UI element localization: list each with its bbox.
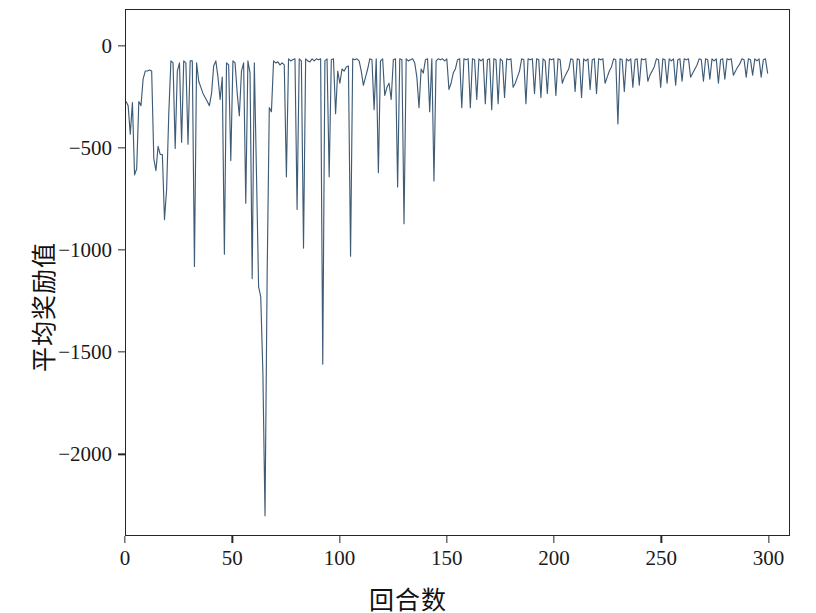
x-tick-label: 250 xyxy=(646,546,678,571)
x-tick-label: 300 xyxy=(753,546,785,571)
y-tick-mark xyxy=(118,45,125,46)
x-tick-mark xyxy=(232,536,233,543)
y-tick-mark xyxy=(118,249,125,250)
y-tick-mark xyxy=(118,147,125,148)
x-axis-label: 回合数 xyxy=(0,580,816,613)
y-tick-mark xyxy=(118,454,125,455)
reward-line xyxy=(126,59,768,516)
figure-canvas: 0 −500 −1000 −1500 −2000 平均奖励值 回合数 05010… xyxy=(0,0,816,613)
y-axis-label: 平均奖励值 xyxy=(24,207,60,407)
x-tick-label: 100 xyxy=(324,546,356,571)
y-tick-label: −1000 xyxy=(58,238,112,263)
y-tick-label: −500 xyxy=(69,135,112,160)
y-tick-mark xyxy=(118,352,125,353)
reward-curve-svg xyxy=(126,10,789,535)
x-tick-mark xyxy=(446,536,447,543)
plot-area xyxy=(125,9,790,536)
y-tick-label: −2000 xyxy=(58,442,112,467)
x-tick-label: 150 xyxy=(431,546,463,571)
y-tick-label: 0 xyxy=(102,33,113,58)
x-tick-mark xyxy=(661,536,662,543)
x-tick-label: 50 xyxy=(222,546,243,571)
x-tick-mark xyxy=(768,536,769,543)
y-tick-label: −1500 xyxy=(58,340,112,365)
x-tick-mark xyxy=(124,536,125,543)
x-tick-mark xyxy=(553,536,554,543)
y-axis-label-wrap: 平均奖励值 xyxy=(14,0,54,613)
x-tick-label: 200 xyxy=(538,546,570,571)
x-tick-label: 0 xyxy=(120,546,131,571)
x-tick-mark xyxy=(339,536,340,543)
